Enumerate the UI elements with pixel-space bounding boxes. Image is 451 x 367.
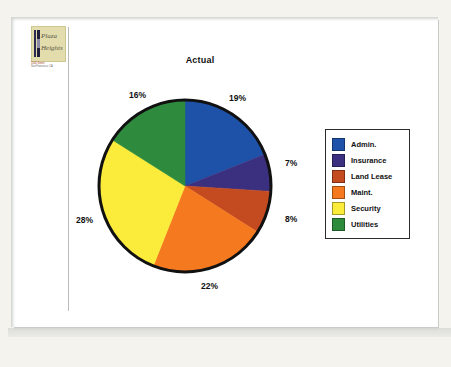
- legend-row: Insurance: [332, 152, 404, 168]
- pie-value-label-security: 28%: [76, 215, 93, 225]
- logo-address-block: 1000 Street San Francisco, CA: [31, 62, 67, 69]
- legend-row: Utilities: [332, 216, 404, 232]
- pie-value-label-land-lease: 8%: [285, 214, 297, 224]
- legend-item-label: Land Lease: [351, 172, 392, 181]
- chart-legend: Admin.InsuranceLand LeaseMaint.SecurityU…: [325, 129, 410, 239]
- pie-value-label-maint: 22%: [201, 281, 218, 291]
- legend-swatch-icon: [332, 170, 345, 183]
- logo-pillar-icon: [34, 30, 40, 57]
- logo-word-bottom: Heights: [41, 45, 63, 52]
- chart-title: Actual: [150, 55, 250, 65]
- pie-chart-svg: [95, 96, 275, 276]
- pie-value-label-insurance: 7%: [285, 158, 297, 168]
- legend-item-label: Utilities: [351, 220, 378, 229]
- legend-row: Security: [332, 200, 404, 216]
- legend-row: Maint.: [332, 184, 404, 200]
- legend-item-label: Security: [351, 204, 381, 213]
- logo-address-line-2: San Francisco, CA: [31, 65, 67, 68]
- pie-value-label-admin: 19%: [229, 93, 246, 103]
- legend-item-label: Admin.: [351, 140, 376, 149]
- pie-chart: [95, 96, 275, 276]
- legend-row: Land Lease: [332, 168, 404, 184]
- slide-canvas: Plaza Heights 1000 Street San Francisco,…: [0, 0, 451, 367]
- legend-swatch-icon: [332, 218, 345, 231]
- logo-word-top: Plaza: [41, 33, 57, 40]
- page-bottom-band: [8, 328, 451, 337]
- company-logo: Plaza Heights: [31, 26, 66, 62]
- vertical-divider-rule: [68, 27, 69, 311]
- legend-swatch-icon: [332, 186, 345, 199]
- legend-item-label: Insurance: [351, 156, 386, 165]
- legend-row: Admin.: [332, 136, 404, 152]
- legend-item-label: Maint.: [351, 188, 373, 197]
- legend-swatch-icon: [332, 138, 345, 151]
- pie-value-label-utilities: 16%: [129, 90, 146, 100]
- legend-swatch-icon: [332, 202, 345, 215]
- legend-swatch-icon: [332, 154, 345, 167]
